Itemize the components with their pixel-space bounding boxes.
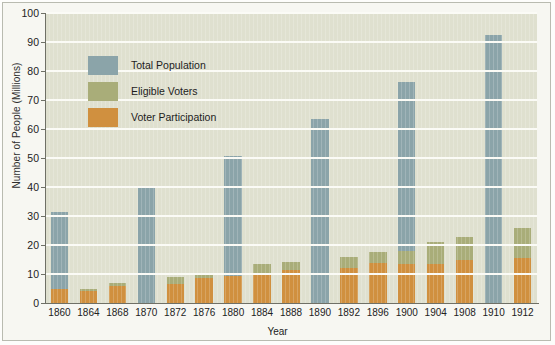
x-axis-line [45,303,539,304]
y-tick-label: 90 [13,36,39,48]
legend-swatch-icon [88,108,118,127]
bar-segment-voter-participation [456,260,473,303]
x-tick-label: 1912 [503,307,543,318]
x-axis-title: Year [0,326,555,337]
legend-swatch-icon [88,82,118,101]
bar-segment-voter-participation [80,291,97,303]
y-tick-label: 30 [13,210,39,222]
y-tick-label: 60 [13,123,39,135]
gridline [45,41,537,43]
y-tick-label: 100 [13,7,39,19]
y-tick-label: 20 [13,239,39,251]
bar-segment-voter-participation [514,258,531,303]
y-axis-line [45,13,46,304]
bar-segment-voter-participation [224,276,241,303]
y-tick-label: 70 [13,94,39,106]
bar-segment-voter-participation [109,286,126,303]
y-tick-label: 80 [13,65,39,77]
legend-label: Eligible Voters [131,85,198,97]
gridline [45,157,537,159]
legend-label: Total Population [131,59,206,71]
bar-segment-voter-participation [427,264,444,303]
gridline [45,186,537,188]
bar-segment-total-population [485,35,502,303]
legend-item-voter-participation: Voter Participation [88,104,216,130]
chart-legend: Total Population Eligible Voters Voter P… [88,52,216,130]
bar-segment-voter-participation [253,273,270,303]
legend-item-total-population: Total Population [88,52,216,78]
y-tick-label: 10 [13,268,39,280]
legend-label: Voter Participation [131,111,216,123]
bar-segment-voter-participation [195,278,212,303]
chart-figure: Number of People (Millions) 010203040506… [0,0,555,345]
bar-segment-total-population [311,119,328,303]
legend-swatch-icon [88,56,118,75]
gridline [45,273,537,275]
bar-segment-voter-participation [167,284,184,303]
bar-segment-voter-participation [369,263,386,303]
gridline [45,12,537,14]
y-tick-label: 40 [13,181,39,193]
bar-segment-voter-participation [398,264,415,303]
bar-segment-voter-participation [51,289,68,303]
y-tick-label: 0 [13,297,39,309]
y-tick-label: 50 [13,152,39,164]
gridline [45,244,537,246]
legend-item-eligible-voters: Eligible Voters [88,78,216,104]
gridline [45,215,537,217]
